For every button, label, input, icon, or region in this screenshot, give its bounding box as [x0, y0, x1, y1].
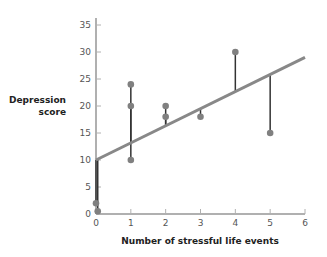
y-tick-label: 20 — [80, 101, 92, 111]
y-tick-label: 35 — [80, 20, 91, 30]
y-tick-label: 15 — [80, 128, 91, 138]
y-axis-label-line2: score — [39, 107, 66, 117]
data-point — [128, 157, 135, 164]
regression-line — [96, 57, 305, 160]
x-tick-label: 4 — [232, 218, 238, 228]
x-tick-label: 6 — [302, 218, 308, 228]
data-point — [197, 114, 204, 121]
y-tick-label: 0 — [85, 209, 91, 219]
data-point — [128, 103, 135, 110]
data-points — [93, 49, 274, 215]
data-point — [267, 130, 274, 137]
x-tick-label: 2 — [163, 218, 169, 228]
y-tick-label: 25 — [80, 74, 91, 84]
data-point — [162, 114, 169, 121]
x-tick-label: 5 — [267, 218, 273, 228]
data-point — [94, 208, 101, 215]
x-axis-label: Number of stressful life events — [121, 236, 279, 246]
x-axis: 0123456 — [93, 209, 308, 228]
x-tick-label: 1 — [128, 218, 134, 228]
scatter-chart: 05101520253035 0123456 Depression score … — [0, 0, 327, 257]
data-point — [232, 49, 239, 56]
residual-lines — [96, 52, 270, 211]
data-point — [93, 200, 100, 207]
data-point — [128, 81, 135, 88]
x-tick-label: 0 — [93, 218, 99, 228]
data-point — [162, 103, 169, 110]
y-tick-label: 5 — [85, 182, 91, 192]
y-tick-label: 30 — [80, 47, 92, 57]
x-tick-label: 3 — [198, 218, 204, 228]
y-tick-label: 10 — [80, 155, 92, 165]
y-axis-label-line1: Depression — [9, 95, 66, 105]
